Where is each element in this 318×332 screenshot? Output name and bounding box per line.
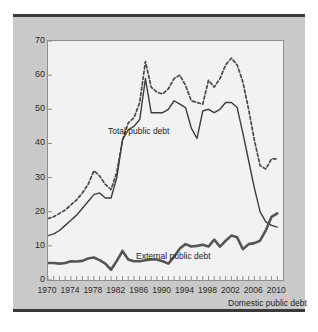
y-tick-0: 0 [19, 275, 45, 284]
plot-area: Total public debt External public debt D… [47, 40, 284, 281]
y-tick-40: 40 [19, 138, 45, 147]
y-tick-20: 20 [19, 207, 45, 216]
top-rule [13, 14, 305, 17]
bottom-rule [13, 309, 305, 312]
chart-lines [48, 41, 283, 280]
y-axis-tick-labels: 010203040506070 [15, 0, 45, 332]
series-line-total-public-debt [48, 58, 277, 218]
x-axis-tick-labels: 1970197419781982198619901994199820022006… [0, 286, 318, 300]
y-tick-50: 50 [19, 104, 45, 113]
series-line-domestic-public-debt [48, 213, 277, 269]
y-tick-30: 30 [19, 173, 45, 182]
y-tick-60: 60 [19, 70, 45, 79]
series-label-external-public-debt: External public debt [136, 251, 211, 261]
series-label-total-public-debt: Total public debt [108, 126, 169, 136]
x-tick-2010: 2010 [261, 286, 291, 295]
series-line-external-public-debt [48, 79, 277, 236]
y-tick-70: 70 [19, 36, 45, 45]
y-tick-10: 10 [19, 241, 45, 250]
figure: 010203040506070 Total public debt Extern… [0, 0, 318, 332]
